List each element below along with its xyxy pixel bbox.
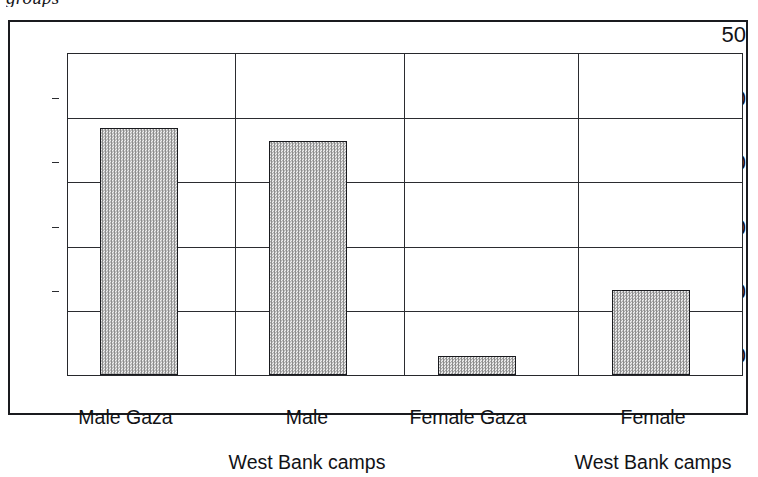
category-separator-3 — [578, 54, 579, 375]
x-tick-line-1: Female — [573, 406, 733, 429]
x-tick-line-1: Male Gaza — [69, 406, 182, 429]
bar-female-west-bank-camps — [612, 290, 690, 375]
x-tick-label-female-gaza: Female Gaza — [400, 383, 536, 451]
x-tick-label-male-gaza: Male Gaza — [69, 383, 182, 451]
bar-male-west-bank-camps — [269, 141, 347, 375]
category-separator-1 — [235, 54, 236, 375]
y-tick-mark-10 — [52, 291, 59, 292]
x-tick-line-1: Male — [227, 406, 387, 429]
y-tick-label-50: 50 — [705, 24, 746, 46]
x-tick-line-1: Female Gaza — [400, 406, 536, 429]
y-tick-mark-30 — [52, 162, 59, 163]
x-tick-line-2: West Bank camps — [573, 451, 733, 474]
bar-male-gaza — [100, 128, 178, 375]
x-tick-label-male-west-bank-camps: Male West Bank camps — [227, 383, 387, 477]
y-tick-mark-20 — [52, 227, 59, 228]
y-tick-mark-40 — [52, 98, 59, 99]
category-separator-2 — [404, 54, 405, 375]
gridline-10 — [68, 118, 742, 119]
x-tick-line-2: West Bank camps — [227, 451, 387, 474]
plot-area — [67, 53, 743, 376]
x-tick-label-female-west-bank-camps: Female West Bank camps — [573, 383, 733, 477]
caption-text-fragment: groups — [6, 0, 59, 7]
bar-female-gaza — [438, 356, 516, 375]
chart-outer-frame: 50 40 30 20 10 0 Male — [8, 20, 748, 415]
